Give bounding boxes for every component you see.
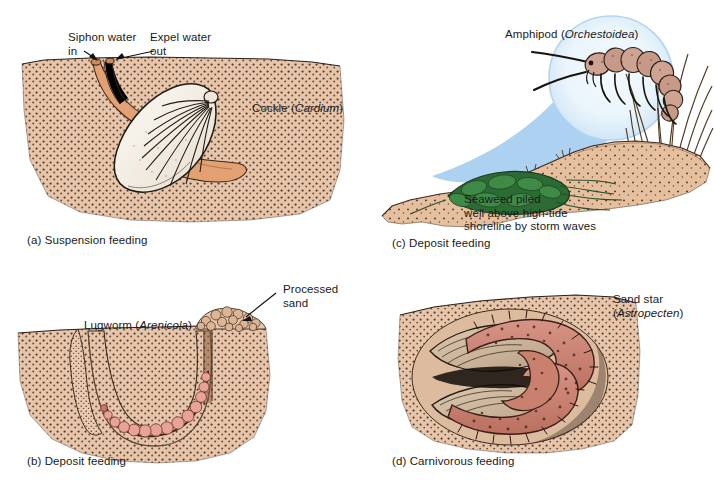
label-expel-water-out: Expel water out (150, 31, 211, 58)
label-sand-star-species: Sand star (Astropecten) (613, 293, 683, 320)
caption-panel-c: (c) Deposit feeding (392, 237, 490, 251)
label-seaweed-note: Seaweed piled well above high-tide shore… (464, 193, 596, 234)
label-processed-sand: Processed sand (283, 283, 338, 310)
label-siphon-water-in: Siphon water in (68, 31, 136, 58)
label-amphipod-species: Amphipod (Orchestoidea) (505, 28, 638, 42)
label-lugworm-species: Lugworm (Arenicola) (84, 319, 192, 333)
panel-carnivorous-feeding (370, 255, 714, 485)
processed-sand-mound (196, 307, 266, 332)
caption-panel-d: (d) Carnivorous feeding (392, 455, 514, 469)
leader-arrow-processed-sand (242, 293, 276, 321)
caption-panel-a: (a) Suspension feeding (27, 234, 147, 248)
caption-panel-b: (b) Deposit feeding (27, 455, 126, 469)
feeding-modes-figure: Siphon water in Expel water out Cockle (… (0, 0, 714, 485)
sand-substrate-b (18, 326, 270, 463)
label-cockle-species: Cockle (Cardium) (252, 102, 343, 116)
